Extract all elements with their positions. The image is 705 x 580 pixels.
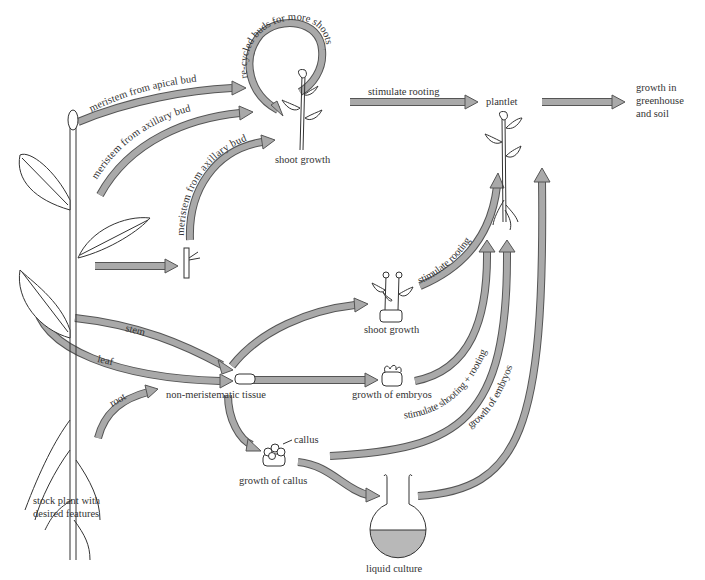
arrow-axillary-bud-2 xyxy=(190,135,275,240)
label-greenhouse-line2: greenhouse xyxy=(636,94,684,107)
arrow-to-callus xyxy=(228,395,261,451)
label-non-meristematic-tissue: non-meristematic tissue xyxy=(166,388,266,401)
arrow-culture-to-plantlet xyxy=(418,168,550,496)
arrow-callus-to-culture xyxy=(298,462,380,502)
label-plantlet: plantlet xyxy=(486,95,518,108)
arrow-leaf xyxy=(35,300,233,388)
arrow-to-embryos xyxy=(250,373,378,387)
label-shoot-growth-mid: shoot growth xyxy=(364,323,419,336)
arrow-stimulate-rooting-top xyxy=(350,95,478,109)
tissue-culture-diagram: re-cycled buds for more shoots meristem … xyxy=(0,0,705,580)
label-growth-of-callus: growth of callus xyxy=(239,474,307,487)
non-meristematic-tissue-illustration xyxy=(235,374,255,384)
label-liquid-culture: liquid culture xyxy=(366,562,422,575)
arrow-to-shoot-growth-mid xyxy=(232,298,368,366)
label-stock-plant-line1: stock plant with xyxy=(33,494,100,507)
arrow-root xyxy=(98,385,158,438)
stock-plant-illustration xyxy=(19,110,150,560)
arrow-cutting xyxy=(95,259,178,273)
label-stock-plant-line2: desired features xyxy=(33,507,99,520)
stem-cutting-illustration xyxy=(184,248,200,278)
label-growth-of-embryos: growth of embryos xyxy=(352,388,432,401)
callus-illustration xyxy=(263,440,292,466)
label-greenhouse-line3: and soil xyxy=(636,107,669,120)
arrow-stem xyxy=(75,318,233,374)
label-callus: callus xyxy=(294,433,319,446)
label-greenhouse-line1: growth in xyxy=(636,81,677,94)
label-shoot-growth-top: shoot growth xyxy=(275,153,330,166)
embryos-illustration xyxy=(382,365,402,386)
shoot-growth-culture-illustration xyxy=(372,272,413,322)
label-stem: stem xyxy=(125,322,147,337)
liquid-culture-flask-illustration xyxy=(370,475,426,558)
arrow-to-greenhouse xyxy=(542,95,625,109)
label-stimulate-rooting-top: stimulate rooting xyxy=(368,86,440,97)
